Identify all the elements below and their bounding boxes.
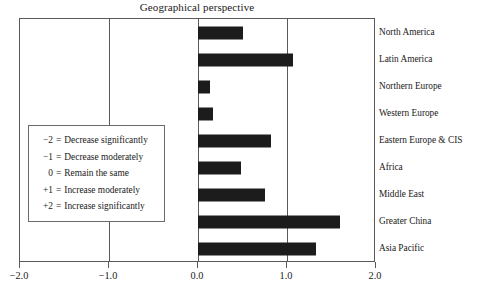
bar [198, 26, 243, 39]
chart-figure: Geographical perspective North AmericaLa… [0, 0, 483, 294]
category-axis-labels: North AmericaLatin AmericaNorthern Europ… [379, 18, 483, 262]
legend-item-equals: = [53, 149, 64, 166]
x-axis: −2.0−1.00.01.02.0 [19, 262, 375, 292]
x-tick-mark [197, 262, 198, 268]
x-tick-mark [286, 262, 287, 268]
bar [198, 53, 293, 66]
legend-item-key: +2 [36, 198, 53, 215]
x-tick-mark [108, 262, 109, 268]
category-label: Asia Pacific [379, 243, 424, 254]
chart-title: Geographical perspective [19, 1, 375, 14]
category-label: Northern Europe [379, 80, 442, 91]
category-label: Eastern Europe & CIS [379, 135, 462, 146]
legend-item-description: Decrease moderately [64, 149, 143, 166]
x-tick-mark [375, 262, 376, 268]
bar [198, 189, 265, 202]
category-label: Middle East [379, 189, 424, 200]
category-label: Western Europe [379, 107, 438, 118]
bar [198, 134, 271, 147]
x-tick-label: 1.0 [280, 270, 293, 282]
bar-row [20, 19, 374, 46]
bar [198, 216, 340, 229]
legend-item: −1=Decrease moderately [36, 149, 155, 166]
category-label: Latin America [379, 53, 432, 64]
bar [198, 80, 210, 93]
legend-item-description: Increase moderately [64, 182, 140, 199]
legend-item: +1=Increase moderately [36, 182, 155, 199]
bar-row [20, 46, 374, 73]
legend: −2=Decrease significantly−1=Decrease mod… [28, 125, 165, 222]
bar [198, 243, 316, 256]
category-label: Greater China [379, 216, 431, 227]
legend-item-key: 0 [36, 165, 53, 182]
legend-item: +2=Increase significantly [36, 198, 155, 215]
x-tick-mark [19, 262, 20, 268]
legend-item-equals: = [53, 198, 64, 215]
bar-row [20, 236, 374, 263]
legend-item-equals: = [53, 132, 64, 149]
bar [198, 162, 241, 175]
legend-item-equals: = [53, 165, 64, 182]
legend-item-description: Remain the same [64, 165, 129, 182]
legend-item-description: Decrease significantly [64, 132, 148, 149]
x-tick-label: 0.0 [191, 270, 204, 282]
x-tick-label: −2.0 [10, 270, 29, 282]
legend-item-key: −2 [36, 132, 53, 149]
x-tick-label: 2.0 [369, 270, 382, 282]
x-tick-label: −1.0 [99, 270, 118, 282]
category-label: Africa [379, 162, 403, 173]
legend-item-description: Increase significantly [64, 198, 144, 215]
category-label: North America [379, 26, 435, 37]
legend-item-key: +1 [36, 182, 53, 199]
legend-item-equals: = [53, 182, 64, 199]
bar-row [20, 100, 374, 127]
legend-item: 0=Remain the same [36, 165, 155, 182]
bar [198, 107, 213, 120]
bar-row [20, 73, 374, 100]
legend-item: −2=Decrease significantly [36, 132, 155, 149]
legend-item-key: −1 [36, 149, 53, 166]
